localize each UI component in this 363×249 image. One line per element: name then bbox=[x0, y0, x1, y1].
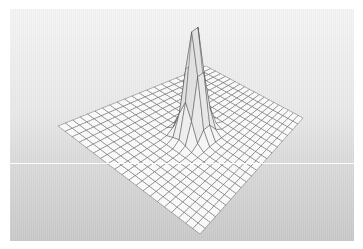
surface-plot-canvas bbox=[10, 9, 354, 241]
surface-plot-svg bbox=[10, 9, 354, 241]
figure-root bbox=[0, 0, 363, 249]
